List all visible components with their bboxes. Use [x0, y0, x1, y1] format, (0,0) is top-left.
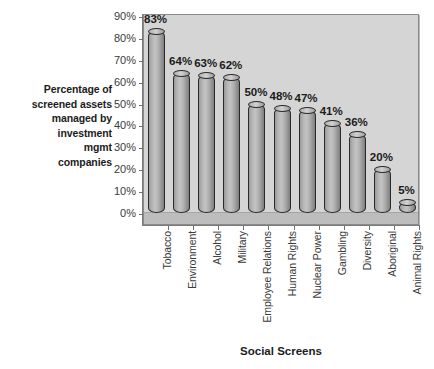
- bar-top-ellipse: [299, 107, 316, 114]
- bar-top-ellipse: [248, 101, 265, 108]
- x-tick-mark: [243, 226, 244, 230]
- x-category-label: Nuclear Power: [311, 231, 323, 299]
- bar-value-label: 36%: [339, 116, 373, 128]
- y-axis-line: [142, 14, 143, 225]
- x-tick-mark: [419, 226, 420, 230]
- bar-top-ellipse: [399, 199, 416, 206]
- x-tick-mark: [168, 226, 169, 230]
- x-tick-mark: [344, 226, 345, 230]
- x-category-label: Human Rights: [286, 231, 298, 296]
- plot-floor: [144, 212, 418, 224]
- bar[interactable]: [349, 134, 366, 213]
- bar-top-ellipse: [274, 105, 291, 112]
- bar-top-ellipse: [223, 74, 240, 81]
- x-axis-line: [142, 225, 420, 226]
- y-axis-title-line-1: Percentage of: [8, 82, 112, 97]
- x-tick-mark: [394, 226, 395, 230]
- x-tick-mark: [218, 226, 219, 230]
- bar[interactable]: [299, 110, 316, 213]
- y-axis-title-line-3: managed by: [8, 111, 112, 126]
- y-tick-label: 70%: [96, 54, 136, 66]
- x-axis-title: Social Screens: [143, 345, 419, 357]
- bar[interactable]: [399, 202, 416, 213]
- bar[interactable]: [223, 77, 240, 213]
- y-tick-label: 0%: [96, 207, 136, 219]
- x-tick-mark: [294, 226, 295, 230]
- plot-area: [143, 14, 419, 225]
- x-tick-mark: [319, 226, 320, 230]
- bar[interactable]: [274, 108, 291, 213]
- bar[interactable]: [173, 73, 190, 213]
- bar-value-label: 47%: [289, 92, 323, 104]
- bar-value-label: 83%: [139, 13, 173, 25]
- x-category-label: Environment: [186, 231, 198, 289]
- y-axis-title-line-4: investment: [8, 126, 112, 141]
- bar-top-ellipse: [349, 131, 366, 138]
- x-category-label: Diversity: [361, 231, 373, 270]
- bar-top-ellipse: [173, 70, 190, 77]
- x-category-label: Gambling: [336, 231, 348, 275]
- bar[interactable]: [374, 169, 391, 213]
- bar-top-ellipse: [324, 120, 341, 127]
- x-category-label: Employee Relations: [261, 231, 273, 323]
- y-axis-title-line-2: screened assets: [8, 97, 112, 112]
- bar-value-label: 20%: [364, 151, 398, 163]
- y-axis-title-line-6: companies: [8, 155, 112, 170]
- bar-top-ellipse: [148, 28, 165, 35]
- bar-value-label: 5%: [389, 184, 423, 196]
- bar-top-ellipse: [198, 72, 215, 79]
- y-axis-title: Percentage of screened assets managed by…: [8, 82, 112, 170]
- bar[interactable]: [198, 75, 215, 213]
- x-category-label: Animal Rights: [411, 231, 423, 294]
- bar-value-label: 62%: [214, 59, 248, 71]
- x-tick-mark: [369, 226, 370, 230]
- x-tick-mark: [268, 226, 269, 230]
- y-tick-label: 90%: [96, 10, 136, 22]
- bar[interactable]: [248, 104, 265, 213]
- x-category-label: Alcohol: [211, 231, 223, 265]
- bar[interactable]: [148, 31, 165, 213]
- y-tick-label: 10%: [96, 185, 136, 197]
- x-category-label: Tobacco: [161, 231, 173, 269]
- y-axis-title-line-5: mgmt: [8, 140, 112, 155]
- x-tick-mark: [193, 226, 194, 230]
- bar-top-ellipse: [374, 166, 391, 173]
- bar[interactable]: [324, 123, 341, 213]
- x-category-label: Aboriginal: [386, 231, 398, 277]
- x-category-label: Military: [236, 231, 248, 263]
- y-tick-label: 80%: [96, 32, 136, 44]
